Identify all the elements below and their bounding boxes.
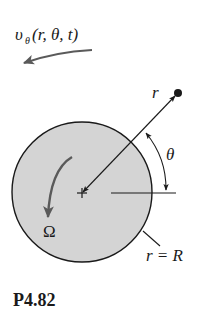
angle-label: θ [166, 145, 174, 164]
velocity-subscript: θ [25, 35, 30, 46]
velocity-symbol: υ [15, 25, 23, 44]
boundary-leader-line [143, 231, 160, 246]
velocity-args: (r, θ, t) [32, 25, 78, 44]
velocity-label: υ θ (r, θ, t) [15, 25, 78, 46]
point-marker [174, 89, 182, 97]
figure-caption: P4.82 [13, 290, 56, 310]
rotation-label: Ω [43, 222, 56, 241]
velocity-direction-arrow-icon [24, 50, 92, 63]
diagram-canvas: υ θ (r, θ, t) r θ Ω r = R P4.82 [0, 0, 199, 313]
radius-label: r [152, 83, 159, 102]
boundary-label: r = R [146, 246, 184, 265]
